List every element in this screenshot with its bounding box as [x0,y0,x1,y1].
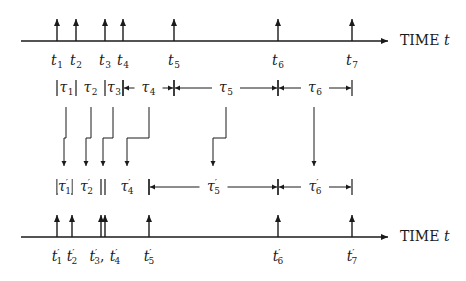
bottom-interval-label-tau5: τ′5 [206,179,221,193]
time-warping-diagram [0,0,466,281]
top-interval-label-tau1: τ1 [59,80,75,94]
bottom-axis-label-text: TIME [400,228,439,244]
top-interval-label-tau3: τ3 [106,80,122,94]
top-interval-label-tau2: τ2 [83,80,99,94]
event-label-t5: t5 [168,53,180,67]
event-label-t1-prime: t′1 [52,249,63,263]
top-time-axis [21,19,388,41]
bottom-axis-label: TIME t [400,229,450,243]
bottom-interval-label-tau1: τ′1 [57,179,72,193]
bottom-interval-label-tau6: τ′6 [308,179,323,193]
bottom-time-axis [21,215,388,237]
event-label-t6-prime: t′6 [273,249,284,263]
event-label-t1: t1 [51,53,63,67]
connector-5 [213,107,226,166]
top-interval-label-tau4: τ4 [141,80,157,94]
event-label-t4-prime: t′4 [110,249,121,263]
connector-1 [64,107,66,166]
event-label-t6: t6 [272,53,284,67]
connector-4 [127,107,149,166]
label-separator: , [100,248,104,264]
top-axis-label-text: TIME [400,32,439,48]
bottom-interval-label-tau4: τ′4 [120,179,135,193]
event-label-t5-prime: t′5 [144,249,155,263]
top-interval-label-tau5: τ5 [218,80,234,94]
mapping-connectors [64,107,314,166]
top-axis-label-var: t [444,32,450,48]
event-label-t3-prime: t′3, [89,249,104,263]
event-label-t7: t7 [346,53,358,67]
top-axis-label: TIME t [400,33,450,47]
top-interval-label-tau6: τ6 [307,80,323,94]
bottom-axis-label-var: t [444,228,450,244]
event-label-t3: t3 [99,53,111,67]
event-label-t2-prime: t′2 [67,249,78,263]
event-label-t2: t2 [70,53,82,67]
event-label-t4: t4 [117,53,129,67]
connector-3 [103,107,113,166]
bottom-interval-label-tau2: τ′2 [79,179,94,193]
connector-2 [86,107,91,166]
event-label-t7-prime: t′7 [347,249,358,263]
